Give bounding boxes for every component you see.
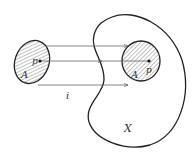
label-p-left: p (32, 56, 38, 66)
label-A-left: A (20, 69, 28, 80)
point-p-left (38, 59, 41, 62)
label-space-X: X (123, 122, 133, 135)
label-map-i: i (66, 90, 69, 101)
inclusion-diagram: p A p A i X (0, 0, 193, 153)
label-A-right: A (130, 69, 138, 80)
label-p-right: p (146, 65, 152, 75)
point-p-right (147, 59, 150, 62)
